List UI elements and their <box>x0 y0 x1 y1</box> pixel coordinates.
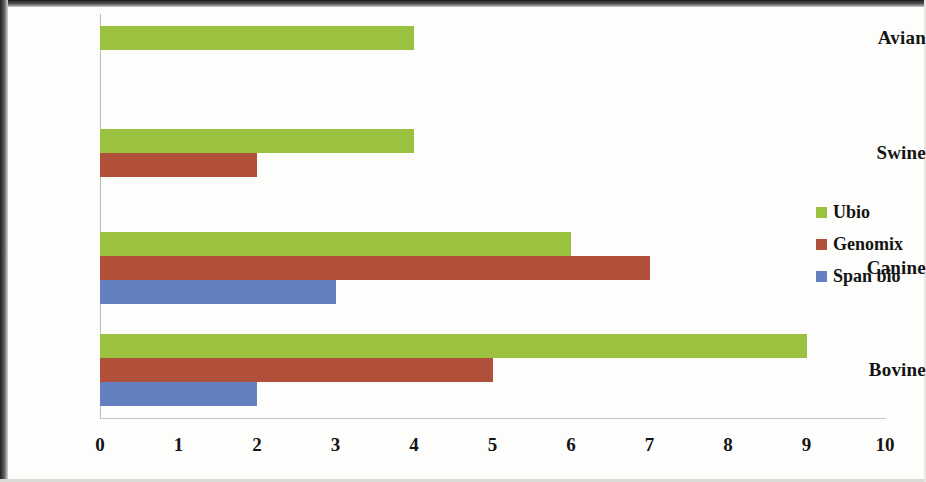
legend-item-genomix[interactable]: Genomix <box>816 228 924 260</box>
bar-canine-genomix <box>100 256 650 280</box>
legend-label: Genomix <box>833 234 903 255</box>
legend-item-span-bio[interactable]: Span bio <box>816 260 924 292</box>
value-tick-8: 8 <box>708 434 748 456</box>
category-axis-line <box>100 418 886 419</box>
legend-item-ubio[interactable]: Ubio <box>816 196 924 228</box>
legend-swatch-icon <box>816 239 827 250</box>
bar-canine-span-bio <box>100 280 336 304</box>
value-tick-2: 2 <box>237 434 277 456</box>
bar-canine-ubio <box>100 232 571 256</box>
category-label-swine: Swine <box>832 143 926 162</box>
bar-chart-plot-area: AvianSwineCanineBovine 012345678910 <box>0 0 926 482</box>
bar-swine-ubio <box>100 129 414 153</box>
bar-bovine-span-bio <box>100 382 257 406</box>
value-tick-7: 7 <box>630 434 670 456</box>
chart-page: AvianSwineCanineBovine 012345678910 Ubio… <box>0 0 926 482</box>
bar-avian-ubio <box>100 26 414 50</box>
bar-bovine-ubio <box>100 334 807 358</box>
value-tick-0: 0 <box>80 434 120 456</box>
value-tick-9: 9 <box>787 434 827 456</box>
value-tick-3: 3 <box>316 434 356 456</box>
value-tick-5: 5 <box>473 434 513 456</box>
category-label-avian: Avian <box>832 28 926 47</box>
legend-label: Span bio <box>833 266 901 287</box>
value-tick-10: 10 <box>865 434 905 456</box>
value-tick-6: 6 <box>551 434 591 456</box>
value-tick-4: 4 <box>394 434 434 456</box>
bar-swine-genomix <box>100 153 257 177</box>
chart-legend: UbioGenomixSpan bio <box>816 196 924 292</box>
value-tick-1: 1 <box>159 434 199 456</box>
legend-swatch-icon <box>816 271 827 282</box>
legend-label: Ubio <box>833 202 870 223</box>
bar-bovine-genomix <box>100 358 493 382</box>
legend-swatch-icon <box>816 207 827 218</box>
category-label-bovine: Bovine <box>832 360 926 379</box>
